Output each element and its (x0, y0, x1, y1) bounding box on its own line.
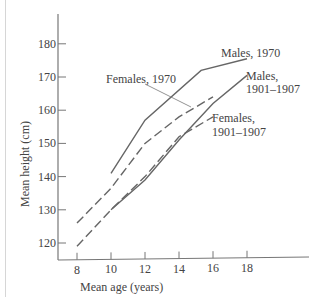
x-tick-label: 18 (241, 261, 253, 275)
x-tick-label: 10 (105, 262, 117, 276)
y-tick-label: 130 (38, 203, 56, 217)
series-females-1970 (77, 97, 213, 223)
x-tick-label: 14 (173, 262, 185, 276)
y-tick-label: 170 (38, 70, 56, 84)
x-axis-title: Mean age (years) (80, 280, 163, 294)
y-ticks: 120130140150160170180 (38, 37, 66, 250)
x-ticks: 81012141618 (74, 251, 253, 277)
label-females-1901-1907-line2: 1901–1907 (212, 125, 266, 139)
x-tick-label: 12 (139, 262, 151, 276)
series-females-1901-1907 (77, 117, 213, 246)
label-females-1970: Females, 1970 (106, 72, 176, 86)
y-tick-label: 160 (38, 103, 56, 117)
x-tick-label: 16 (207, 261, 219, 275)
label-males-1901-1907-line2: 1901–1907 (246, 82, 300, 96)
y-tick-label: 140 (38, 170, 56, 184)
y-axis-title: Mean height (cm) (18, 121, 32, 207)
label-males-1970: Males, 1970 (221, 46, 280, 60)
y-tick-label: 180 (38, 37, 56, 51)
label-males-1901-1907-line1: Males, (246, 69, 278, 83)
females-1970-leader-line (145, 84, 191, 107)
x-axis (58, 257, 309, 260)
series-lines (77, 59, 247, 247)
label-females-1901-1907-line1: Females, (212, 111, 255, 125)
height-by-age-chart: 120130140150160170180 81012141618 Mean a… (0, 0, 320, 297)
x-tick-label: 8 (74, 263, 80, 277)
y-tick-label: 150 (38, 136, 56, 150)
y-tick-label: 120 (38, 236, 56, 250)
